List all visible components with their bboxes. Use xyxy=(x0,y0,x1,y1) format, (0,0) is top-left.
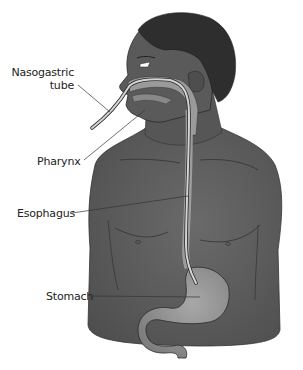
anatomy-figure xyxy=(0,0,303,370)
label-pharynx: Pharynx xyxy=(37,155,80,168)
label-stomach-text: Stomach xyxy=(46,290,93,303)
label-nasogastric-tube: Nasogastric tube xyxy=(6,66,74,92)
label-nasogastric-tube-line1: Nasogastric xyxy=(6,66,74,79)
label-pharynx-text: Pharynx xyxy=(37,155,80,168)
label-esophagus-text: Esophagus xyxy=(17,207,75,220)
label-esophagus: Esophagus xyxy=(17,207,75,220)
label-nasogastric-tube-line2: tube xyxy=(6,79,74,92)
leader-line-nasogastric-tube xyxy=(78,85,110,112)
label-stomach: Stomach xyxy=(46,290,93,303)
